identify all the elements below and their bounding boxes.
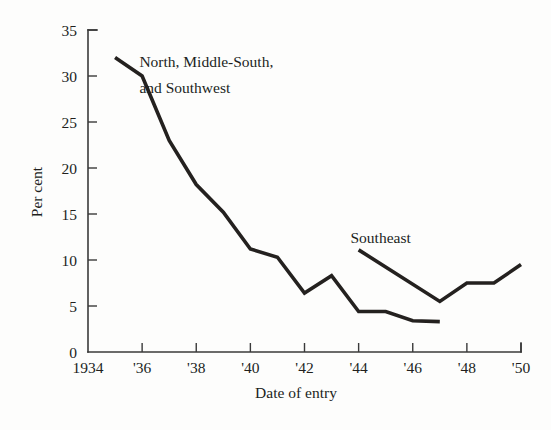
x-tick-label: '48	[458, 359, 477, 376]
y-tick-label: 5	[69, 298, 77, 315]
series-line-0	[115, 58, 440, 322]
series-group	[115, 58, 521, 322]
y-tick-label: 35	[62, 22, 78, 39]
chart-page: 05101520253035 1934'36'38'40'42'44'46'48…	[0, 0, 551, 430]
x-tick-label: '42	[295, 359, 313, 376]
x-tick-label: '50	[512, 359, 531, 376]
y-tick-label: 30	[62, 68, 78, 85]
x-tick-label-group: 1934'36'38'40'42'44'46'48'50	[73, 359, 531, 376]
x-tick-label: '46	[404, 359, 423, 376]
line-chart: 05101520253035 1934'36'38'40'42'44'46'48…	[0, 0, 551, 430]
series-line-1	[359, 250, 521, 302]
x-axis-title: Date of entry	[255, 384, 337, 401]
y-tick-label-group: 05101520253035	[62, 22, 78, 361]
y-tick-label: 25	[62, 114, 78, 131]
series-annotation-2: Southeast	[351, 229, 412, 246]
y-tick-group	[88, 30, 97, 306]
y-axis-title: Per cent	[28, 166, 45, 217]
y-tick-label: 0	[69, 344, 77, 361]
annotation-group: North, Middle-South,and SouthwestSouthea…	[139, 53, 411, 246]
x-tick-label: '36	[133, 359, 152, 376]
series-annotation-0: North, Middle-South,	[139, 53, 273, 70]
series-annotation-1: and Southwest	[139, 79, 231, 96]
x-tick-label: '44	[349, 359, 368, 376]
x-tick-label: 1934	[73, 359, 104, 376]
y-tick-label: 10	[62, 252, 78, 269]
y-tick-label: 20	[62, 160, 78, 177]
x-tick-group	[142, 343, 521, 352]
y-tick-label: 15	[62, 206, 78, 223]
x-tick-label: '38	[187, 359, 206, 376]
x-tick-label: '40	[241, 359, 260, 376]
